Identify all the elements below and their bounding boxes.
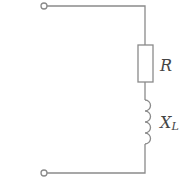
bottom-wire xyxy=(47,144,145,173)
inductor-label-main: X xyxy=(158,113,172,132)
inductor-label: XL xyxy=(158,113,179,133)
top-terminal xyxy=(41,3,47,9)
resistor-symbol xyxy=(138,45,153,82)
inductor-label-sub: L xyxy=(170,120,178,133)
inductor-symbol xyxy=(145,100,151,144)
bottom-terminal xyxy=(41,170,47,176)
top-wire xyxy=(47,6,145,45)
resistor-label: R xyxy=(159,56,172,75)
circuit-diagram: R XL xyxy=(0,0,191,181)
